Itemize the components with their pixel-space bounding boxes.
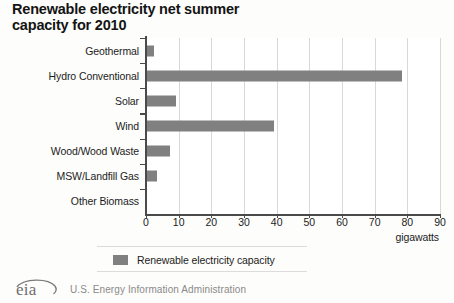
chart-figure: Renewable electricity net summer capacit… [0,0,454,303]
category-label: Solar [115,95,139,107]
bar-row: Geothermal [0,38,454,63]
category-label: Geothermal [85,45,139,57]
chart-footer: eia U.S. Energy Information Administrati… [14,279,246,300]
bar-wood-wood-waste [147,146,170,157]
bar-row: Other Biomass [0,189,454,214]
bar-wind [147,120,274,131]
bar-msw-landfill-gas [147,171,157,182]
y-axis-tick-2 [140,88,146,89]
category-label: Wood/Wood Waste [51,145,139,157]
y-axis-tick-4 [140,139,146,140]
eia-logo-text: eia [16,280,37,300]
x-axis-label: gigawatts [396,231,439,243]
eia-logo: eia [14,279,60,300]
bar-geothermal [147,45,154,56]
category-label: Hydro Conventional [49,70,139,82]
bar-solar [147,95,176,106]
legend-divider-top [97,246,307,247]
footer-agency-name: U.S. Energy Information Administration [70,284,246,295]
legend-divider-bottom [97,271,307,272]
x-axis-tick-label: 90 [420,216,454,228]
category-label: Other Biomass [71,195,139,207]
y-axis-tick-3 [140,113,146,114]
legend-label-renewable-capacity: Renewable electricity capacity [137,254,275,266]
bar-hydro-conventional [147,70,402,81]
category-label: Wind [115,120,139,132]
y-axis-tick-6 [140,189,146,190]
category-label: MSW/Landfill Gas [57,170,139,182]
y-axis-tick-5 [140,164,146,165]
legend-swatch-renewable-capacity [113,255,128,265]
bar-row: MSW/Landfill Gas [0,164,454,189]
bar-row: Wind [0,113,454,138]
bar-row: Wood/Wood Waste [0,139,454,164]
bar-row: Solar [0,88,454,113]
bar-row: Hydro Conventional [0,63,454,88]
y-axis-tick-0 [140,38,146,39]
chart-legend: Renewable electricity capacity [113,254,275,266]
y-axis-tick-1 [140,63,146,64]
